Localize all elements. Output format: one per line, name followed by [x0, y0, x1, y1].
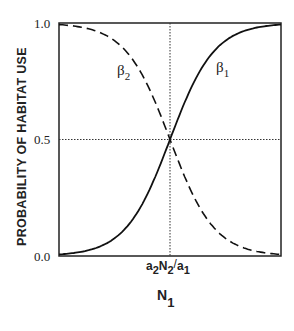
habitat-use-chart: 1.0 0.5 0.0 PROBABILITY OF HABITAT USE β… [0, 0, 294, 331]
y-tick-1-0: 1.0 [34, 16, 50, 31]
x-axis-label: N1 [157, 287, 174, 310]
series-label-beta1: β1 [216, 59, 229, 79]
y-tick-0-5: 0.5 [34, 132, 50, 147]
series-label-beta2: β2 [117, 62, 130, 82]
y-tick-0-0: 0.0 [34, 249, 50, 264]
y-axis-label: PROBABILITY OF HABITAT USE [15, 47, 29, 246]
x-tick-label: a2N2/a1 [146, 257, 190, 276]
